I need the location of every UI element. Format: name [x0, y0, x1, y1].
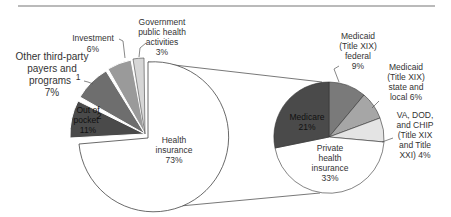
label-medicaid-federal: Medicaid (Title XIX) federal 9% — [339, 31, 377, 71]
svg-text:3%: 3% — [156, 47, 169, 57]
svg-text:21%: 21% — [298, 122, 315, 132]
pie-of-pie-chart: Health insurance 73% Out of pocket 2 11%… — [0, 0, 451, 217]
svg-text:public health: public health — [138, 27, 186, 37]
label-medicaid-state: Medicaid (Title XIX) state and local 6% — [387, 62, 425, 102]
label-va-dod-chip: VA, DOD, and CHIP (Title XIX and Title X… — [397, 110, 434, 160]
svg-text:Private: Private — [317, 143, 344, 153]
svg-text:(Title XIX): (Title XIX) — [339, 41, 377, 51]
svg-text:1: 1 — [76, 72, 81, 82]
svg-text:6%: 6% — [87, 44, 100, 54]
svg-text:7%: 7% — [45, 87, 60, 98]
svg-text:federal: federal — [345, 51, 371, 61]
label-gov-public-health: Government public health activities 3% — [138, 17, 186, 57]
svg-text:pocket: pocket — [73, 115, 99, 125]
svg-text:and Title: and Title — [399, 140, 431, 150]
label-other-third-party: Other third-party payers and programs 1 … — [16, 51, 89, 98]
svg-text:insurance: insurance — [312, 163, 349, 173]
svg-text:9%: 9% — [352, 61, 365, 71]
svg-text:VA, DOD,: VA, DOD, — [397, 110, 434, 120]
svg-text:activities: activities — [146, 37, 179, 47]
svg-text:33%: 33% — [321, 173, 338, 183]
svg-text:XXI) 4%: XXI) 4% — [399, 150, 431, 160]
svg-text:local 6%: local 6% — [390, 92, 423, 102]
svg-text:payers and: payers and — [27, 63, 76, 74]
svg-text:2: 2 — [97, 111, 102, 121]
svg-text:Government: Government — [139, 17, 186, 27]
svg-text:programs: programs — [29, 75, 71, 86]
svg-text:health: health — [318, 153, 341, 163]
svg-text:insurance: insurance — [156, 145, 193, 155]
svg-text:(Title XIX: (Title XIX — [398, 130, 433, 140]
svg-text:Medicaid: Medicaid — [389, 62, 423, 72]
svg-text:Medicaid: Medicaid — [341, 31, 375, 41]
svg-text:state and: state and — [389, 82, 424, 92]
svg-text:73%: 73% — [165, 155, 182, 165]
svg-text:11%: 11% — [80, 125, 97, 135]
svg-text:Investment: Investment — [72, 33, 114, 43]
svg-text:Medicare: Medicare — [290, 112, 325, 122]
svg-text:Other third-party: Other third-party — [16, 51, 89, 62]
svg-text:and CHIP: and CHIP — [397, 120, 434, 130]
svg-text:(Title XIX): (Title XIX) — [387, 72, 425, 82]
svg-text:Health: Health — [162, 135, 187, 145]
